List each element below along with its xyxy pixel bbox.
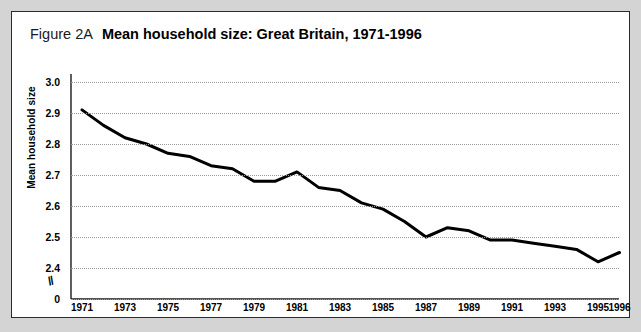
- gridline: [71, 175, 619, 176]
- x-axis-tick-label: 1985: [372, 302, 394, 313]
- x-axis-tick-label: 1987: [415, 302, 437, 313]
- x-axis-tick-label: 1993: [544, 302, 566, 313]
- chart-line-series: [12, 12, 631, 319]
- gridline: [71, 82, 619, 83]
- x-axis-tick-label: 1979: [243, 302, 265, 313]
- x-axis-tick-label: 1991: [501, 302, 523, 313]
- gridline: [71, 206, 619, 207]
- figure-panel: Figure 2A Mean household size: Great Bri…: [11, 11, 630, 318]
- x-axis-tick-label: 1977: [200, 302, 222, 313]
- gridline: [71, 299, 619, 300]
- x-axis-tick-label: 1995: [587, 302, 609, 313]
- x-axis-tick-label: 1983: [329, 302, 351, 313]
- gridline: [71, 113, 619, 114]
- gridline: [71, 268, 619, 269]
- x-axis-tick-label: 1996: [608, 302, 630, 313]
- gridline: [71, 144, 619, 145]
- x-axis-tick-label: 1989: [458, 302, 480, 313]
- gridline: [71, 237, 619, 238]
- x-axis-tick-label: 1975: [157, 302, 179, 313]
- x-axis-tick-label: 1981: [286, 302, 308, 313]
- x-axis-tick-label: 1971: [71, 302, 93, 313]
- chart-plot-area: Mean household size 3.02.92.82.72.62.52.…: [12, 12, 631, 319]
- x-axis-tick-label: 1973: [114, 302, 136, 313]
